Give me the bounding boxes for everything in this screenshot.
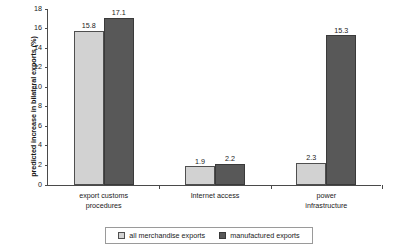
bar-value-label: 1.9 <box>195 157 205 166</box>
y-axis-title: predicted increase in bilateral exports … <box>29 12 38 202</box>
y-axis-tick-label: 10 <box>34 82 42 92</box>
y-axis-tick-mark <box>45 9 49 10</box>
bar-chart: predicted increase in bilateral exports … <box>0 0 397 250</box>
dark-swatch-icon <box>219 232 226 239</box>
legend-item: all merchandise exports <box>118 231 205 240</box>
y-axis-tick-mark <box>45 48 49 49</box>
chart-legend: all merchandise exportsmanufactured expo… <box>105 227 313 244</box>
bar-value-label: 2.3 <box>306 153 316 162</box>
x-axis-category-label: powerinfrastructure <box>278 191 374 210</box>
x-axis-tick <box>271 185 272 189</box>
y-axis-tick-label: 12 <box>34 62 42 72</box>
y-axis-tick-label: 4 <box>38 140 42 150</box>
plot-area: 024681012141618 15.817.11.92.22.315.3 ex… <box>47 10 381 186</box>
x-axis-category-label: export customsprocedures <box>56 191 152 210</box>
legend-item-label: manufactured exports <box>230 231 300 240</box>
y-axis-tick-label: 16 <box>34 23 42 33</box>
legend-item: manufactured exports <box>219 231 300 240</box>
legend-item-label: all merchandise exports <box>129 231 205 240</box>
bar: 2.2 <box>215 164 245 186</box>
y-axis-tick-label: 18 <box>34 4 42 14</box>
x-axis-category-label: Internet access <box>167 191 263 201</box>
bar-value-label: 15.3 <box>334 26 348 35</box>
x-axis-category-label-line: Internet access <box>167 191 263 201</box>
x-axis-category-label-line: procedures <box>56 201 152 211</box>
x-axis-category-label-line: power <box>278 191 374 201</box>
x-axis-category-label-line: infrastructure <box>278 201 374 211</box>
y-axis-tick-mark <box>45 28 49 29</box>
bar-group: 2.315.3 <box>296 10 356 185</box>
y-axis-tick-mark <box>45 87 49 88</box>
y-axis-tick-mark <box>45 165 49 166</box>
bar-value-label: 15.8 <box>82 21 96 30</box>
bar: 2.3 <box>296 163 326 185</box>
bar-group: 15.817.1 <box>74 10 134 185</box>
bar: 17.1 <box>104 18 134 185</box>
y-axis-tick-mark <box>45 67 49 68</box>
y-axis-tick-mark <box>45 126 49 127</box>
light-swatch-icon <box>118 232 125 239</box>
bar-value-label: 2.2 <box>225 154 235 163</box>
y-axis-tick-mark <box>45 185 49 186</box>
y-axis-tick-label: 2 <box>38 160 42 170</box>
y-axis-tick-label: 6 <box>38 121 42 131</box>
bar-group: 1.92.2 <box>185 10 245 185</box>
y-axis-tick-label: 0 <box>38 180 42 190</box>
y-axis-tick-label: 8 <box>38 101 42 111</box>
x-axis-tick <box>382 185 383 189</box>
y-axis-tick-mark <box>45 106 49 107</box>
bar: 1.9 <box>185 166 215 185</box>
x-axis-category-label-line: export customs <box>56 191 152 201</box>
bar-value-label: 17.1 <box>112 8 126 17</box>
y-axis-tick-mark <box>45 145 49 146</box>
bar: 15.8 <box>74 31 104 185</box>
x-axis-tick <box>159 185 160 189</box>
y-axis-tick-label: 14 <box>34 43 42 53</box>
bar: 15.3 <box>326 35 356 185</box>
